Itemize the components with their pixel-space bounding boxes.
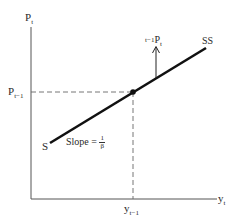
line-end-label: SS bbox=[202, 36, 213, 46]
equilibrium-point bbox=[130, 89, 136, 95]
x-marker-label: yt−1 bbox=[124, 203, 139, 214]
diagram-canvas bbox=[0, 0, 237, 220]
line-start-label: S bbox=[42, 141, 48, 152]
y-axis-label: Pt bbox=[25, 12, 33, 23]
x-axis-label: yt bbox=[218, 193, 225, 204]
arrow-label: t−1Pt bbox=[145, 35, 162, 45]
slope-fraction: 1 β bbox=[99, 135, 105, 150]
slope-label: Slope = 1 β bbox=[66, 135, 105, 150]
y-marker-label: Pt−1 bbox=[8, 86, 24, 97]
supply-line bbox=[50, 48, 206, 143]
